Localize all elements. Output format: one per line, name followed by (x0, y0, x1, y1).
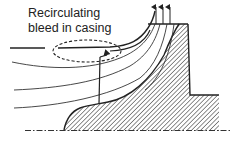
compressor-diagram (0, 0, 250, 154)
outlet-arrows (156, 7, 170, 24)
hub (64, 24, 219, 131)
